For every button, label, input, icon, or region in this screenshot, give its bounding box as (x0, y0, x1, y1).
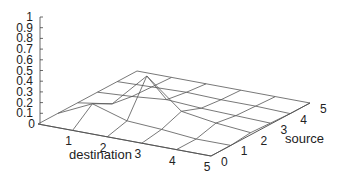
destination-tick-label: 3 (134, 147, 141, 161)
mesh-line-source (132, 87, 152, 97)
mesh-line-source (112, 96, 132, 103)
destination-tick-label: 5 (204, 160, 211, 174)
mesh-line-destination (236, 116, 271, 123)
mesh-line-destination (221, 100, 256, 106)
mesh-line-destination (73, 130, 108, 136)
mesh-line-destination (256, 106, 291, 113)
mesh-line-destination (112, 76, 147, 104)
mesh-line-destination (186, 92, 221, 99)
mesh-line-source (78, 92, 98, 103)
mesh-line-source (162, 111, 182, 129)
mesh-line-source (142, 129, 162, 143)
mesh-line-destination (241, 90, 276, 96)
mesh-line-source (221, 90, 241, 100)
source-tick-label: 5 (320, 102, 327, 116)
z-tick-label: 1 (26, 10, 33, 24)
mesh-line-source (117, 71, 137, 82)
source-tick-label: 2 (261, 134, 268, 148)
source-tick-label: 1 (241, 144, 248, 158)
mesh-line-destination (275, 97, 310, 103)
source-tick-label: 4 (300, 113, 307, 127)
mesh-line-source (58, 103, 78, 114)
surface-plot: 00.10.20.30.40.50.60.70.80.9112345012345 (0, 0, 337, 174)
mesh-line-destination (58, 104, 93, 114)
mesh-line-destination (127, 121, 162, 130)
source-tick-label: 0 (221, 155, 228, 169)
mesh-line-source (196, 123, 216, 139)
mesh-line-source (97, 82, 117, 93)
mesh-line-source (181, 108, 201, 111)
mesh-line-destination (172, 77, 207, 83)
mesh-line-source (251, 123, 271, 133)
mesh-line-destination (92, 104, 127, 121)
mesh-line-source (176, 139, 196, 150)
destination-tick-label: 4 (169, 154, 176, 168)
mesh-line-source (216, 116, 236, 123)
mesh-line-source (38, 113, 58, 124)
mesh-line-source (270, 114, 290, 124)
mesh-line-destination (107, 137, 142, 143)
mesh-line-destination (137, 71, 172, 77)
y-axis-label: source (285, 132, 324, 145)
x-axis-label: destination (69, 148, 132, 161)
mesh-line-destination (142, 143, 177, 149)
mesh-line-source (107, 121, 127, 137)
mesh-line-source (236, 106, 256, 116)
mesh-line-destination (162, 129, 197, 139)
mesh-line-destination (97, 92, 132, 96)
mesh-line-destination (167, 100, 202, 109)
mesh-line-source (201, 100, 221, 108)
mesh-line-destination (206, 84, 241, 90)
mesh-line-source (127, 76, 147, 121)
mesh-line-destination (176, 150, 211, 156)
mesh-line-source (167, 92, 187, 99)
mesh-line-source (256, 97, 276, 107)
mesh-line-source (73, 104, 93, 131)
mesh-line-destination (216, 123, 251, 133)
mesh-line-destination (201, 108, 236, 115)
mesh-line-destination (38, 124, 73, 130)
mesh-line-source (186, 84, 206, 92)
mesh-line-destination (181, 111, 216, 123)
mesh-line-destination (196, 139, 231, 145)
